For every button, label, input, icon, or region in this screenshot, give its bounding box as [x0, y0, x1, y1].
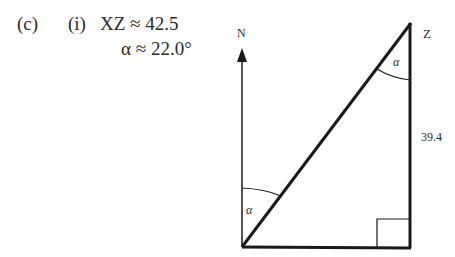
base-side: [242, 247, 411, 248]
angle-label-top: α: [393, 55, 400, 69]
vertex-label-z: Z: [423, 26, 431, 41]
hypotenuse-xz: [242, 23, 411, 247]
angle-arc-bottom: [242, 188, 281, 196]
north-arrow-head-icon: [237, 48, 247, 62]
triangle-diagram: N α α Z 39.4: [0, 0, 455, 257]
angle-arc-top: [377, 69, 410, 80]
north-label: N: [237, 26, 246, 40]
side-length-label: 39.4: [421, 130, 442, 144]
angle-label-bottom: α: [246, 203, 253, 217]
right-angle-marker: [377, 219, 409, 247]
